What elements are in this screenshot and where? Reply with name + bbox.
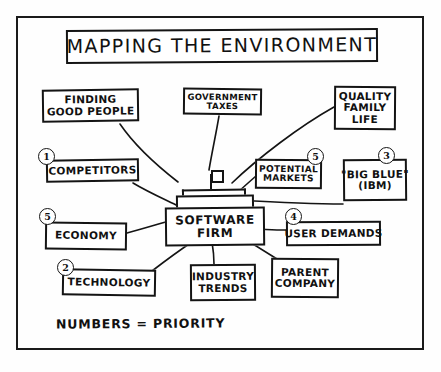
- node-line2: TAXES: [207, 101, 239, 110]
- legend-numbers-equal-priority: NUMBERS = PRIORITY: [56, 315, 225, 331]
- diagram-canvas: MAPPING THE ENVIRONMENT SOFTWARE FIRM FI…: [0, 0, 441, 372]
- priority-badge-big-blue: 3: [378, 147, 395, 164]
- node-line2: GOOD PEOPLE: [47, 105, 135, 117]
- node-line2: TRENDS: [198, 282, 247, 293]
- node-industry-trends[interactable]: INDUSTRY TRENDS: [190, 264, 256, 301]
- node-competitors[interactable]: COMPETITORS: [46, 158, 139, 182]
- node-finding-good-people[interactable]: FINDING GOOD PEOPLE: [42, 88, 139, 122]
- node-line2: FAMILY: [343, 102, 386, 113]
- node-economy[interactable]: ECONOMY: [45, 222, 127, 251]
- node-line2: MARKETS: [263, 174, 314, 184]
- center-node-software-firm[interactable]: SOFTWARE FIRM: [161, 167, 265, 243]
- priority-badge-potential-markets: 5: [307, 148, 324, 165]
- node-line1: COMPETITORS: [48, 164, 136, 176]
- priority-badge-technology: 2: [57, 259, 74, 276]
- node-quality-family-life[interactable]: QUALITY FAMILY LIFE: [334, 86, 396, 130]
- node-line1: ECONOMY: [55, 230, 117, 242]
- center-node-line1: SOFTWARE: [175, 213, 255, 226]
- node-line3: LIFE: [352, 113, 378, 124]
- node-user-demands[interactable]: USER DEMANDS: [286, 221, 381, 247]
- priority-badge-user-demands: 4: [285, 208, 302, 225]
- page-title: MAPPING THE ENVIRONMENT: [66, 28, 378, 64]
- node-line2: COMPANY: [275, 278, 336, 290]
- center-node-line2: FIRM: [197, 226, 233, 239]
- node-line1: USER DEMANDS: [284, 228, 382, 240]
- page-title-text: MAPPING THE ENVIRONMENT: [67, 35, 378, 57]
- center-node-label: SOFTWARE FIRM: [165, 206, 265, 246]
- node-technology[interactable]: TECHNOLOGY: [62, 268, 156, 296]
- node-government-taxes[interactable]: GOVERNMENT TAXES: [183, 88, 262, 116]
- node-big-blue-ibm[interactable]: "BIG BLUE" (IBM): [343, 159, 407, 202]
- node-line1: TECHNOLOGY: [68, 276, 151, 288]
- node-line2: (IBM): [358, 180, 392, 191]
- flag-icon: [211, 170, 224, 183]
- node-parent-company[interactable]: PARENT COMPANY: [271, 258, 339, 299]
- priority-badge-economy: 5: [39, 208, 56, 225]
- priority-badge-competitors: 1: [38, 148, 55, 165]
